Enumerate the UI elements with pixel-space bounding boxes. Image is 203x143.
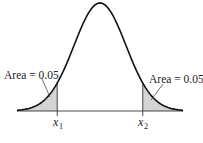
x2-subscript: 2 (144, 122, 148, 131)
left-tail-shaded-area (17, 83, 57, 111)
x2-label: x (137, 115, 144, 129)
left-area-label: Area = 0.05 (4, 69, 59, 81)
right-annotation-leader (151, 84, 163, 100)
right-tail-shaded-area (143, 83, 183, 111)
x1-subscript: 1 (59, 122, 63, 131)
right-area-label: Area = 0.05 (149, 73, 203, 85)
normal-curve (17, 3, 183, 110)
left-annotation-leader (42, 79, 50, 97)
x1-label: x (52, 115, 59, 129)
normal-distribution-chart: Area = 0.05 Area = 0.05 x 1 x 2 (0, 0, 203, 143)
